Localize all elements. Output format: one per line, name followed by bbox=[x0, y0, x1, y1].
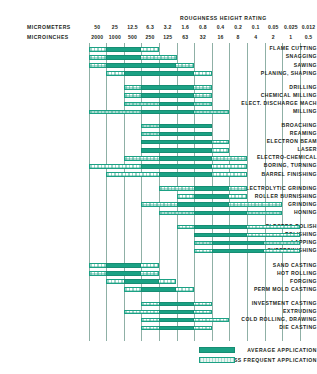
bar-average-application bbox=[159, 132, 212, 137]
micrometers-tick: 50 bbox=[94, 24, 100, 30]
micrometers-tick: 0.2 bbox=[234, 24, 242, 30]
row-label: PLANING, SHAPING bbox=[233, 70, 317, 76]
bar-average-application bbox=[159, 102, 194, 107]
bar-average-application bbox=[106, 47, 141, 52]
row-label: CHEMICAL MILLING bbox=[233, 92, 317, 98]
micrometers-tick: 1.6 bbox=[181, 24, 189, 30]
row-label: EXTRUDING bbox=[233, 308, 317, 314]
grid-line bbox=[106, 43, 107, 341]
microinches-tick: 125 bbox=[163, 34, 172, 40]
row-label: ELECT. DISCHARGE MACH bbox=[233, 100, 317, 106]
micrometers-tick: 0.012 bbox=[302, 24, 316, 30]
bar-average-application bbox=[106, 263, 141, 268]
bar-average-application bbox=[194, 186, 229, 191]
row-label: REAMING bbox=[233, 130, 317, 136]
bar-average-application bbox=[159, 172, 212, 177]
row-label: BROACHING bbox=[233, 122, 317, 128]
micrometers-tick: 3.2 bbox=[164, 24, 172, 30]
bar-average-application bbox=[106, 63, 176, 68]
microinches-tick: 16 bbox=[217, 34, 223, 40]
bar-average-application bbox=[124, 279, 159, 284]
micrometers-tick: 0.4 bbox=[217, 24, 225, 30]
bar-average-application bbox=[159, 318, 194, 323]
surface-roughness-chart: ROUGHNESS HEIGHT RATINGMICROMETERSMICROI… bbox=[0, 0, 317, 374]
grid-line bbox=[89, 43, 90, 341]
bar-average-application bbox=[159, 302, 194, 307]
bar-average-application bbox=[177, 202, 230, 207]
bar-average-application bbox=[159, 326, 194, 331]
bar-average-application bbox=[141, 85, 194, 90]
microinches-tick: 63 bbox=[182, 34, 188, 40]
bar-average-application bbox=[141, 287, 176, 292]
bar-average-application bbox=[194, 233, 247, 238]
microinches-tick: 0.5 bbox=[305, 34, 313, 40]
micrometers-tick: 0.8 bbox=[199, 24, 207, 30]
bar-average-application bbox=[194, 194, 229, 199]
microinches-tick: 500 bbox=[128, 34, 137, 40]
microinches-tick: 8 bbox=[237, 34, 240, 40]
bar-average-application bbox=[194, 225, 247, 230]
microinches-tick: 2 bbox=[272, 34, 275, 40]
microinches-axis-label: MICROINCHES bbox=[27, 34, 69, 40]
row-label: COLD ROLLING, DRAWING bbox=[233, 316, 317, 322]
row-label: HOT ROLLING bbox=[233, 270, 317, 276]
micrometers-tick: 0.05 bbox=[268, 24, 279, 30]
bar-average-application bbox=[141, 110, 194, 115]
micrometers-tick: 25 bbox=[112, 24, 118, 30]
bar-average-application bbox=[141, 93, 194, 98]
microinches-tick: 250 bbox=[146, 34, 155, 40]
grid-line bbox=[229, 43, 230, 341]
bar-average-application bbox=[212, 241, 265, 246]
bar-average-application bbox=[141, 140, 211, 145]
microinches-tick: 2000 bbox=[91, 34, 103, 40]
micrometers-axis-label: MICROMETERS bbox=[27, 24, 71, 30]
bar-average-application bbox=[124, 71, 194, 76]
bar-average-application bbox=[141, 164, 211, 169]
row-label: SAND CASTING bbox=[233, 262, 317, 268]
micrometers-tick: 12.5 bbox=[127, 24, 138, 30]
bar-average-application bbox=[106, 271, 141, 276]
legend-less-frequent-swatch bbox=[199, 357, 235, 363]
micrometers-tick: 0.025 bbox=[284, 24, 298, 30]
row-label: DRILLING bbox=[233, 84, 317, 90]
bar-average-application bbox=[194, 211, 247, 216]
micrometers-tick: 6.3 bbox=[146, 24, 154, 30]
chart-title: ROUGHNESS HEIGHT RATING bbox=[180, 15, 267, 21]
row-label: PERM MOLD CASTING bbox=[233, 286, 317, 292]
row-label: INVESTMENT CASTING bbox=[233, 300, 317, 306]
bar-average-application bbox=[141, 148, 211, 153]
bar-average-application bbox=[212, 249, 265, 254]
row-label: FORGING bbox=[233, 278, 317, 284]
micrometers-tick: 0.1 bbox=[252, 24, 260, 30]
bar-average-application bbox=[159, 124, 212, 129]
bar-average-application bbox=[159, 310, 194, 315]
row-label: MILLING bbox=[233, 108, 317, 114]
row-label: FLAME CUTTING bbox=[233, 45, 317, 51]
grid-line bbox=[212, 43, 213, 341]
row-label: SAWING bbox=[233, 62, 317, 68]
row-label: SNAGGING bbox=[233, 53, 317, 59]
microinches-tick: 1000 bbox=[109, 34, 121, 40]
row-label: LASER bbox=[233, 146, 317, 152]
legend-average-swatch bbox=[199, 347, 235, 353]
row-label: ELECTRON BEAM bbox=[233, 138, 317, 144]
microinches-tick: 4 bbox=[254, 34, 257, 40]
microinches-tick: 32 bbox=[200, 34, 206, 40]
row-label: DIE CASTING bbox=[233, 324, 317, 330]
microinches-tick: 1 bbox=[289, 34, 292, 40]
bar-average-application bbox=[106, 55, 141, 60]
bar-average-application bbox=[159, 156, 212, 161]
